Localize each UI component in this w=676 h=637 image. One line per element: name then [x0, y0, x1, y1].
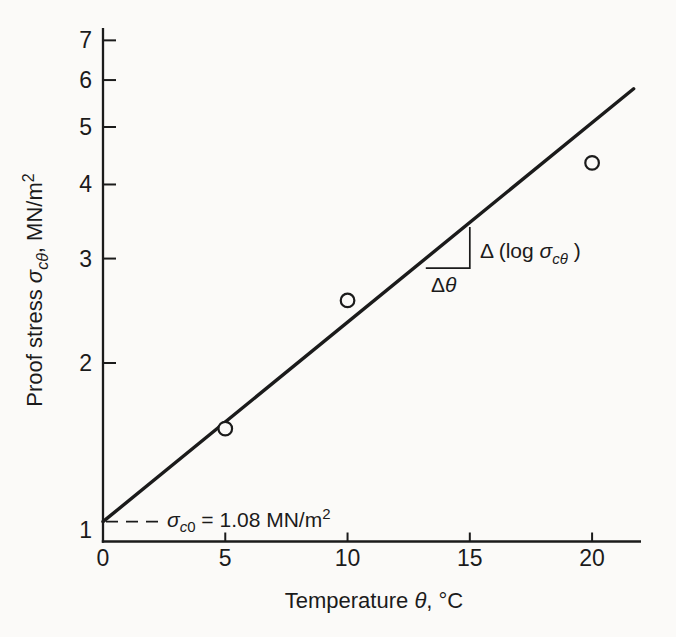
fit-line [103, 89, 634, 522]
slope-triangle [426, 227, 470, 268]
slope-rise-annotation: Δ (log σcθ ) [480, 239, 581, 267]
proof-stress-figure: 765432105101520Proof stress σcθ, MN/m2Te… [0, 0, 676, 637]
y-tick-label: 2 [79, 350, 92, 376]
chart-canvas: 765432105101520Proof stress σcθ, MN/m2Te… [0, 0, 676, 637]
slope-run-annotation: Δθ [431, 273, 457, 296]
intercept-annotation: σc0 = 1.08 MN/m2 [167, 505, 331, 536]
y-tick-label: 1 [79, 517, 92, 543]
data-point [341, 294, 355, 308]
data-point [585, 156, 599, 170]
y-tick-label: 3 [79, 246, 92, 272]
data-point [218, 422, 232, 436]
x-tick-label: 5 [219, 545, 232, 571]
x-axis-title: Temperature θ, °C [285, 588, 464, 613]
y-axis-title: Proof stress σcθ, MN/m2 [20, 173, 51, 406]
x-tick-label: 15 [457, 545, 483, 571]
x-tick-label: 0 [97, 545, 110, 571]
y-tick-label: 6 [79, 67, 92, 93]
y-tick-label: 7 [79, 27, 92, 53]
x-tick-label: 10 [335, 545, 361, 571]
x-tick-label: 20 [579, 545, 605, 571]
y-tick-label: 5 [79, 114, 92, 140]
y-tick-label: 4 [79, 171, 92, 197]
